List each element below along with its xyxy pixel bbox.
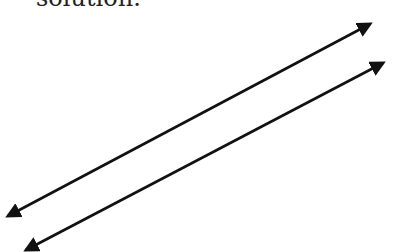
parallel-lines-diagram <box>0 0 398 252</box>
line-1-double-arrow <box>8 24 370 216</box>
line-2-double-arrow <box>26 63 383 250</box>
